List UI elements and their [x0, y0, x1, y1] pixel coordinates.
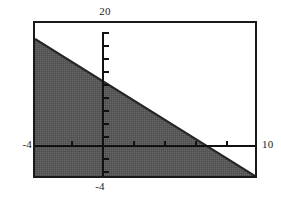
y-axis-tick	[104, 171, 109, 173]
y-axis-tick	[104, 136, 109, 138]
x-axis-tick	[226, 141, 228, 145]
y-axis-tick	[104, 123, 109, 125]
y-axis-tick	[104, 84, 109, 86]
y-axis-tick	[104, 45, 109, 47]
shaded-inequality-region	[35, 23, 255, 176]
y-axis-tick	[104, 58, 109, 60]
y-axis-max-label: 20	[94, 6, 116, 17]
y-axis-min-label: -4	[89, 181, 111, 192]
plot-area	[35, 23, 255, 176]
plot-frame	[33, 21, 257, 178]
plot-screenshot: 20 -4 10 -4	[0, 0, 281, 198]
y-axis-tick	[104, 110, 109, 112]
x-axis-tick	[164, 141, 166, 145]
y-axis-tick	[104, 71, 109, 73]
x-axis-line	[35, 145, 255, 147]
y-axis-line	[102, 32, 104, 176]
y-axis-tick	[104, 32, 109, 34]
y-axis-tick	[104, 158, 109, 160]
x-axis-tick	[133, 141, 135, 145]
x-axis-tick	[195, 141, 197, 145]
x-axis-tick	[71, 141, 73, 145]
x-axis-max-label: 10	[262, 139, 280, 150]
x-axis-min-label: -4	[16, 139, 32, 150]
y-axis-tick	[104, 97, 109, 99]
